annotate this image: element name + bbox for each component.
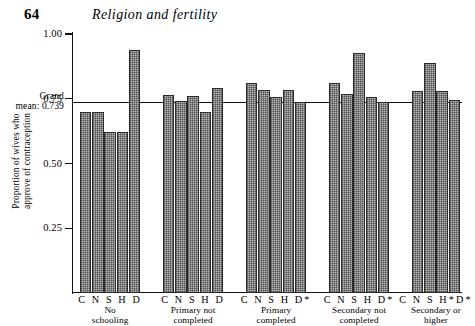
bar-3-C <box>329 83 340 293</box>
page: 64 Religion and fertility 1.000.750.500.… <box>0 0 475 326</box>
bar-3-H <box>366 97 377 293</box>
bar-0-S <box>104 132 115 293</box>
bar-2-S <box>270 97 281 293</box>
bars-layer <box>0 0 475 293</box>
bar-1-C <box>163 95 174 293</box>
bar-2-H <box>283 90 294 293</box>
bar-1-H <box>200 112 211 293</box>
bar-0-D <box>129 50 140 293</box>
bar-4-H*D* <box>449 100 460 293</box>
bar-chart: 1.000.750.500.25 Grand mean: 0.739 Propo… <box>0 0 475 326</box>
bar-1-D <box>212 88 223 293</box>
x-group-caption-line2-4: higher <box>381 315 475 325</box>
bar-3-N <box>341 94 352 293</box>
bar-2-N <box>258 90 269 293</box>
bar-0-H <box>117 132 128 293</box>
bar-2-D* <box>295 102 306 293</box>
bar-0-C <box>80 112 91 293</box>
bar-4-S <box>436 91 447 293</box>
bar-0-N <box>92 112 103 293</box>
x-group-codes-4: C N S H*D* <box>381 294 475 305</box>
bar-4-N <box>424 63 435 294</box>
bar-4-C <box>412 91 423 293</box>
bar-3-D* <box>378 102 389 293</box>
x-group-caption-line1-4: Secondary or <box>381 305 475 315</box>
bar-1-S <box>187 96 198 293</box>
bar-3-S <box>353 53 364 293</box>
bar-1-N <box>175 101 186 293</box>
x-group-label-4: C N S H*D*Secondary orhigher <box>381 294 475 326</box>
bar-2-C <box>246 83 257 293</box>
x-axis-group-labels: C N S H DNoschoolingC N S H DPrimary not… <box>0 294 475 326</box>
